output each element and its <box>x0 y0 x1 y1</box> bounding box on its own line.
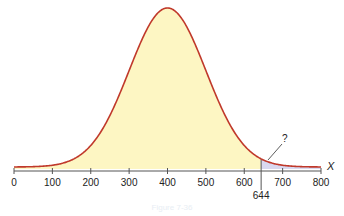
annotation-pointer <box>268 144 282 160</box>
x-tick-label: 200 <box>82 177 99 188</box>
marker-label: 644 <box>253 190 270 201</box>
x-tick-label: 100 <box>44 177 61 188</box>
x-tick-label: 800 <box>313 177 330 188</box>
annotation-question-mark: ? <box>282 133 288 144</box>
x-tick-label: 600 <box>236 177 253 188</box>
figure-caption: Figure 7-36 <box>0 203 344 212</box>
x-tick-label: 500 <box>198 177 215 188</box>
x-tick-label: 0 <box>11 177 17 188</box>
x-tick-label: 300 <box>121 177 138 188</box>
body-area <box>14 8 261 169</box>
normal-curve-chart: 0100200300400500600700800644X? <box>0 0 344 216</box>
x-tick-label: 700 <box>274 177 291 188</box>
x-axis-label: X <box>326 160 335 172</box>
x-tick-label: 400 <box>159 177 176 188</box>
